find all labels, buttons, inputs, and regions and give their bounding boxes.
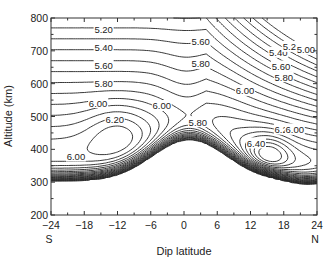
x-axis-title: Dip latitude [156,245,211,257]
y-tick-label: 600 [30,78,48,90]
contour-label: 5.60 [191,36,210,47]
x-tick-label: 18 [278,219,290,231]
y-tick-label: 200 [30,209,48,221]
y-axis-title: Altitude (km) [2,85,14,147]
contour-label: 5.80 [275,72,294,83]
y-tick-label: 800 [30,12,48,24]
x-tick-label: −12 [109,219,127,231]
contour-label: 5.60 [272,61,291,72]
north-label: N [311,233,319,245]
y-tick-label: 400 [30,143,48,155]
x-tick-label: −18 [75,219,93,231]
x-tick-label: 0 [181,219,187,231]
contour-label: 6.20 [105,114,124,125]
y-tick-label: 700 [30,45,48,57]
contour-label: 5.40 [94,42,113,53]
contour-label: 5.20 [94,24,113,35]
contour-label: 6.00 [286,124,305,135]
x-tick-label: −6 [145,219,157,231]
x-tick-label: 24 [311,219,323,231]
contour-label: 6.00 [236,85,255,96]
y-tick-label: 300 [30,176,48,188]
x-tick-label: 6 [214,219,220,231]
contour-label: 5.60 [94,60,113,71]
contour-label: 6.00 [153,100,172,111]
contour-label: 5.80 [189,117,208,128]
contour-label: 6.40 [247,138,266,149]
south-label: S [45,233,52,245]
contour-label: 5.80 [191,58,210,69]
x-tick-label: 12 [245,219,257,231]
contour-label: 5.80 [94,78,113,89]
contour-chart: 5.205.405.605.806.006.206.006.005.605.80… [0,0,334,260]
contour-label: 6.00 [67,151,86,162]
contour-label: 6.00 [89,98,108,109]
contour-label: 5.00 [297,44,316,55]
y-axis: 200300400500600700800 [30,12,317,221]
y-tick-label: 500 [30,111,48,123]
